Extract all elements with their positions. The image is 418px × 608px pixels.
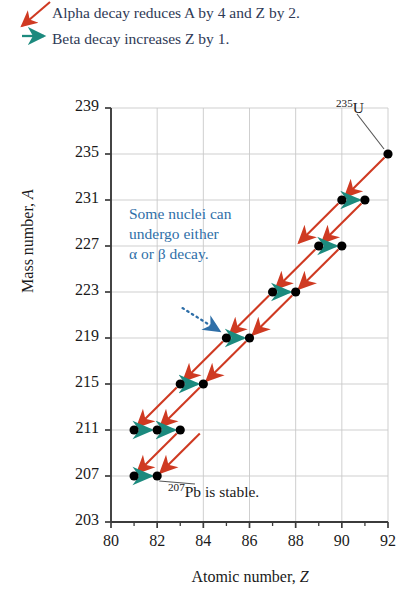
branching-note-line1: Some nuclei can (129, 204, 231, 224)
figure-root: Alpha decay reduces A by 4 and Z by 2. B… (0, 0, 418, 608)
y-tick-label: 223 (59, 281, 99, 299)
x-tick-label: 86 (230, 532, 270, 550)
data-point (153, 471, 162, 480)
x-tick-label: 84 (183, 532, 223, 550)
alpha-decay-arrow (345, 158, 384, 197)
x-tick-label: 82 (137, 532, 177, 550)
data-point (176, 425, 185, 434)
label-leader-lines (159, 114, 384, 484)
data-point (268, 287, 277, 296)
data-point (129, 425, 138, 434)
data-point (222, 333, 231, 342)
callout-dotted-arrow (183, 308, 220, 331)
data-point (291, 287, 300, 296)
callout-arrow (183, 308, 220, 331)
data-point (383, 149, 392, 158)
data-point (360, 195, 369, 204)
x-tick-label: 90 (322, 532, 362, 550)
y-axis-label-text: Mass number, A (19, 189, 36, 293)
y-tick-label: 203 (59, 511, 99, 529)
x-axis-label: Atomic number, Z (111, 568, 389, 586)
data-point (337, 195, 346, 204)
pb207-label: 207Pb is stable. (168, 481, 259, 501)
data-point (129, 471, 138, 480)
x-tick-label: 80 (91, 532, 131, 550)
data-point (337, 241, 346, 250)
y-tick-label: 235 (59, 143, 99, 161)
u235-symbol: U (353, 99, 364, 116)
y-tick-label: 219 (59, 327, 99, 345)
branching-note: Some nuclei can undergo either α or β de… (129, 204, 231, 264)
branching-note-line3: α or β decay. (129, 244, 231, 264)
alpha-decay-arrow (207, 342, 246, 381)
u235-mass-number: 235 (336, 97, 353, 109)
data-point (314, 241, 323, 250)
y-tick-label: 227 (59, 235, 99, 253)
alpha-decay-arrow (253, 296, 292, 335)
alpha-decay-arrow (299, 250, 338, 289)
pb207-text: Pb is stable. (185, 483, 260, 500)
x-tick-label: 92 (368, 532, 408, 550)
data-point (199, 379, 208, 388)
y-axis-label: Mass number, A (19, 171, 37, 311)
y-tick-label: 211 (59, 419, 99, 437)
x-axis-label-text: Atomic number, Z (191, 568, 308, 585)
alpha-decay-arrow (299, 204, 338, 243)
decay-chart: Mass number, A Atomic number, Z 20320721… (0, 0, 418, 608)
alpha-decay-arrow (160, 388, 199, 427)
y-tick-label: 231 (59, 189, 99, 207)
y-tick-label: 215 (59, 373, 99, 391)
x-tick-label: 88 (276, 532, 316, 550)
data-point (245, 333, 254, 342)
data-point (176, 379, 185, 388)
pb207-mass-number: 207 (168, 481, 185, 493)
branching-note-line2: undergo either (129, 224, 231, 244)
y-tick-label: 239 (59, 97, 99, 115)
alpha-decay-arrow (160, 434, 199, 473)
data-point (153, 425, 162, 434)
u235-leader-line (357, 114, 384, 149)
y-tick-label: 207 (59, 465, 99, 483)
u235-label: 235U (336, 97, 364, 117)
